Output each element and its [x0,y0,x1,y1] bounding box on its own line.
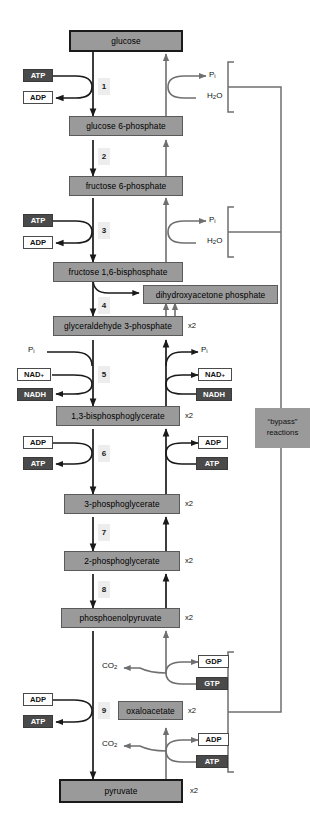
multiplier-pyruvate: x2 [190,786,198,795]
cofactor-chip-adp-step6-right[interactable]: ADP [198,436,228,449]
step-number-6[interactable]: 6 [98,445,110,462]
multiplier-2-phosphoglycerate: x2 [185,556,193,565]
cofactor-chip-atp-step9[interactable]: ATP [23,715,53,728]
molecule-label-pi-right-g3p: Pi [201,345,208,354]
step-number-7[interactable]: 7 [98,524,110,541]
metabolite-box-3-phosphoglycerate[interactable]: 3-phosphoglycerate [64,494,180,514]
metabolite-label-phosphoenolpyruvate: phosphoenolpyruvate [80,613,162,623]
molecule-label-pi-top: Pi [209,70,216,79]
metabolite-label-1-3-bisphosphoglycerate: 1,3-bisphosphoglycerate [71,411,165,421]
bypass-label-line2: reactions [267,428,299,439]
pathway-diagram: glucose glucose 6-phosphate fructose 6-p… [0,0,329,837]
metabolite-box-oxaloacetate[interactable]: oxaloacetate [118,701,183,720]
cofactor-chip-atp-pyruvate-carboxylase[interactable]: ATP [196,755,228,768]
metabolite-box-glyceraldehyde-3-phosphate[interactable]: glyceraldehyde 3-phosphate [53,316,183,336]
multiplier-oxaloacetate: x2 [188,706,196,715]
molecule-label-pi-mid: Pi [209,215,216,224]
metabolite-box-1-3-bisphosphoglycerate[interactable]: 1,3-bisphosphoglycerate [56,406,180,426]
co2-upper-text: CO2 [102,661,117,670]
molecule-label-h2o-top: H2O [207,91,222,100]
step-number-8[interactable]: 8 [98,581,110,598]
pi-right-text: Pi [201,345,208,354]
pi-top-text: Pi [209,70,216,79]
cofactor-chip-adp-step6-left[interactable]: ADP [23,436,53,449]
cofactor-chip-adp-pyruvate-carboxylase[interactable]: ADP [198,733,229,746]
metabolite-label-dihydroxyacetone-phosphate: dihydroxyacetone phosphate [156,290,266,300]
cofactor-chip-gdp[interactable]: GDP [198,655,229,668]
cofactor-chip-nad-plus-step5-right[interactable]: NAD+ [198,368,232,381]
metabolite-label-pyruvate: pyruvate [105,786,138,796]
step-number-4[interactable]: 4 [98,297,110,314]
molecule-label-pi-left-g3p: Pi [28,345,35,354]
h2o-mid-text: H2O [207,236,222,245]
multiplier-1-3-bisphosphoglycerate: x2 [185,411,193,420]
pi-mid-text: Pi [209,215,216,224]
metabolite-label-3-phosphoglycerate: 3-phosphoglycerate [84,499,159,509]
metabolite-box-dihydroxyacetone-phosphate[interactable]: dihydroxyacetone phosphate [143,285,278,304]
cofactor-chip-nad-plus-step5-left[interactable]: NAD+ [17,368,51,381]
h2o-top-text: H2O [207,91,222,100]
metabolite-box-glucose-6-phosphate[interactable]: glucose 6-phosphate [69,116,183,136]
molecule-label-h2o-mid: H2O [207,236,222,245]
cofactor-chip-adp-step3[interactable]: ADP [23,236,53,249]
multiplier-3-phosphoglycerate: x2 [185,499,193,508]
metabolite-box-glucose[interactable]: glucose [69,30,183,52]
multiplier-glyceraldehyde-3-phosphate: x2 [188,321,196,330]
co2-lower-text: CO2 [102,739,117,748]
cofactor-chip-gtp[interactable]: GTP [196,677,228,690]
metabolite-label-fructose-6-phosphate: fructose 6-phosphate [86,181,167,191]
metabolite-label-glyceraldehyde-3-phosphate: glyceraldehyde 3-phosphate [64,321,172,331]
metabolite-label-oxaloacetate: oxaloacetate [126,706,175,716]
bypass-label-line1: “bypass” [267,417,299,428]
molecule-label-co2-lower: CO2 [102,739,117,748]
metabolite-box-phosphoenolpyruvate[interactable]: phosphoenolpyruvate [61,608,180,628]
cofactor-chip-atp-step6-left[interactable]: ATP [23,457,53,470]
cofactor-chip-atp-step1[interactable]: ATP [23,69,53,82]
cofactor-chip-adp-step1[interactable]: ADP [23,91,53,104]
cofactor-chip-nadh-step5-right[interactable]: NADH [196,388,232,401]
cofactor-chip-adp-step9[interactable]: ADP [23,693,53,706]
step-number-5[interactable]: 5 [98,366,110,383]
metabolite-label-glucose-6-phosphate: glucose 6-phosphate [86,121,166,131]
molecule-label-co2-upper: CO2 [102,661,117,670]
metabolite-box-fructose-1-6-bisphosphate[interactable]: fructose 1,6-bisphosphate [53,262,183,282]
multiplier-phosphoenolpyruvate: x2 [185,613,193,622]
step-number-9[interactable]: 9 [98,702,110,719]
metabolite-box-pyruvate[interactable]: pyruvate [59,779,183,803]
step-number-1[interactable]: 1 [98,78,110,95]
cofactor-chip-nadh-step5-left[interactable]: NADH [17,388,53,401]
cofactor-chip-atp-step6-right[interactable]: ATP [196,457,228,470]
bypass-reactions-box[interactable]: “bypass” reactions [255,408,310,448]
metabolite-label-glucose: glucose [111,36,141,46]
metabolite-box-2-phosphoglycerate[interactable]: 2-phosphoglycerate [64,551,180,571]
metabolite-box-fructose-6-phosphate[interactable]: fructose 6-phosphate [69,176,183,196]
pi-left-text: Pi [28,345,35,354]
cofactor-chip-atp-step3[interactable]: ATP [23,214,53,227]
metabolite-label-2-phosphoglycerate: 2-phosphoglycerate [84,556,159,566]
step-number-2[interactable]: 2 [98,148,110,165]
step-number-3[interactable]: 3 [98,222,110,239]
metabolite-label-fructose-1-6-bisphosphate: fructose 1,6-bisphosphate [69,267,168,277]
